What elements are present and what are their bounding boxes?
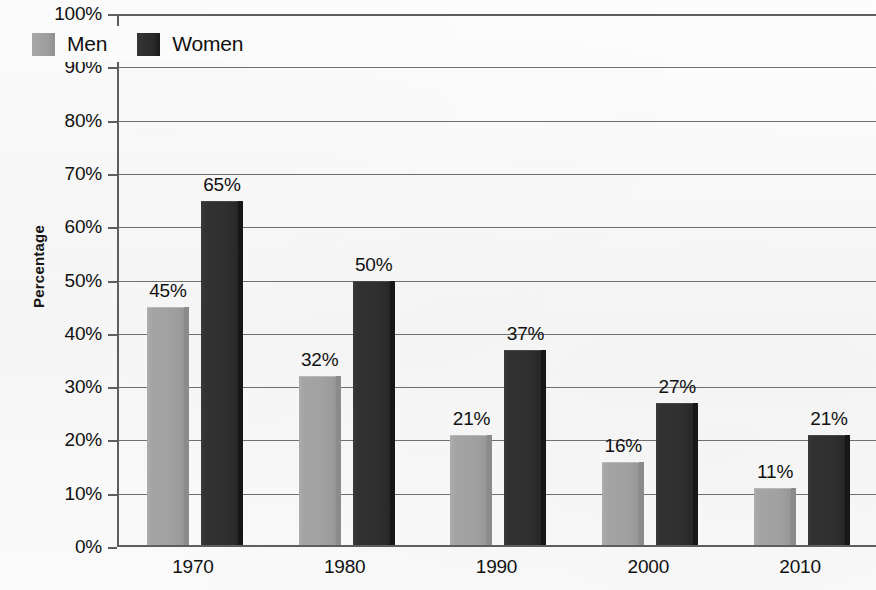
chart-legend: MenWomen — [22, 26, 257, 62]
y-axis-tick-label: 70% — [28, 163, 102, 185]
x-axis-tick-label: 1980 — [324, 556, 365, 578]
x-axis-tick-label: 1970 — [172, 556, 213, 578]
y-axis-tick-label: 60% — [28, 216, 102, 238]
y-axis-tick-label: 0% — [28, 536, 102, 558]
legend-item-women[interactable]: Women — [137, 32, 243, 56]
legend-label: Women — [172, 32, 243, 56]
y-axis-tickmark — [108, 494, 117, 496]
y-axis-tick-labels: 0%10%20%30%40%50%60%70%80%90%100% — [28, 0, 102, 590]
legend-item-men[interactable]: Men — [32, 32, 107, 56]
y-axis-tick-label: 80% — [28, 110, 102, 132]
x-axis-tick-label: 2000 — [628, 556, 669, 578]
y-axis-tick-label: 50% — [28, 270, 102, 292]
y-axis-tickmark — [108, 227, 117, 229]
y-axis-tick-label: 100% — [28, 3, 102, 25]
y-axis-tickmark — [108, 67, 117, 69]
y-axis-tickmark — [108, 281, 117, 283]
women-swatch-icon — [137, 33, 160, 56]
y-axis-tickmark — [108, 547, 117, 549]
y-axis-tick-label: 20% — [28, 429, 102, 451]
y-axis-tick-label: 40% — [28, 323, 102, 345]
y-axis-tickmark — [108, 121, 117, 123]
chart-page: Percentage 0%10%20%30%40%50%60%70%80%90%… — [0, 0, 876, 590]
x-axis-tick-label: 2010 — [779, 556, 820, 578]
x-axis-tick-labels: 19701980199020002010 — [117, 0, 876, 590]
y-axis-tickmark — [108, 387, 117, 389]
y-axis-tick-label: 10% — [28, 483, 102, 505]
y-axis-tickmark — [108, 440, 117, 442]
men-swatch-icon — [32, 33, 55, 56]
y-axis-tickmark — [108, 14, 117, 16]
y-axis-tickmark — [108, 174, 117, 176]
y-axis-tick-label: 30% — [28, 376, 102, 398]
legend-label: Men — [67, 32, 107, 56]
y-axis-tickmark — [108, 334, 117, 336]
x-axis-tick-label: 1990 — [476, 556, 517, 578]
